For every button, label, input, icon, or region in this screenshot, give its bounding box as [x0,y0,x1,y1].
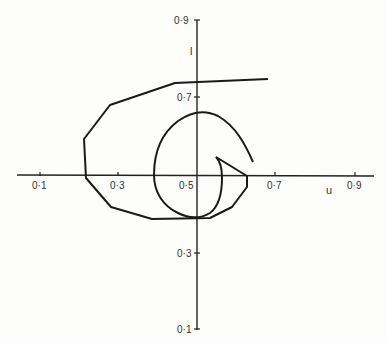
outer-trajectory-line [84,79,268,219]
x-tick-label-0.7: 0·7 [267,180,282,191]
x-axis [17,175,374,176]
y-tick-label-0.9: 0·9 [174,15,189,26]
x-tick-label-0.1: 0·1 [32,180,47,191]
inner-spiral-line [154,112,253,217]
y-tick-label-0.1: 0·1 [177,324,192,335]
y-tick-label-0.7: 0·7 [177,92,192,103]
x-axis-label: u [326,184,332,196]
phase-plot: 0·9 0·7 0·3 0·1 0·1 0·3 0·5 0·7 0·9 l u [0,0,386,343]
y-axis-label: l [190,45,192,57]
y-tick-label-0.3: 0·3 [177,248,192,259]
x-tick-label-0.9: 0·9 [347,180,362,191]
x-tick-label-0.5: 0·5 [179,180,194,191]
x-tick-label-0.3: 0·3 [110,180,125,191]
